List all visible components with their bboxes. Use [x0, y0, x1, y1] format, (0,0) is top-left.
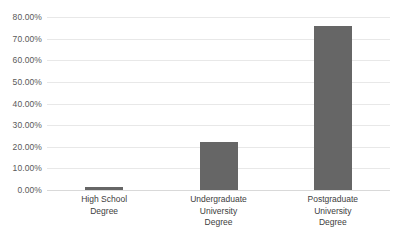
y-axis-tick-label: 0.00% — [17, 185, 42, 195]
y-axis-tick-label: 60.00% — [13, 55, 42, 65]
x-axis-category-label: High School Degree — [47, 194, 161, 217]
bars-group — [47, 17, 390, 190]
axis-baseline — [47, 190, 390, 191]
y-axis: 0.00%10.00%20.00%30.00%40.00%50.00%60.00… — [0, 0, 45, 242]
plot-area — [47, 17, 390, 190]
y-axis-tick-label: 40.00% — [13, 99, 42, 109]
x-axis: High School DegreeUndergraduate Universi… — [47, 194, 390, 242]
bar — [314, 26, 352, 190]
bar — [85, 187, 123, 190]
y-axis-tick-label: 20.00% — [13, 142, 42, 152]
y-axis-tick-label: 10.00% — [13, 163, 42, 173]
bar — [200, 142, 238, 190]
x-axis-category-label: Postgraduate University Degree — [276, 194, 390, 229]
y-axis-tick-label: 50.00% — [13, 77, 42, 87]
x-axis-category-label: Undergraduate University Degree — [161, 194, 275, 229]
bar-chart: 0.00%10.00%20.00%30.00%40.00%50.00%60.00… — [0, 0, 400, 242]
y-axis-tick-label: 80.00% — [13, 12, 42, 22]
y-axis-tick-label: 70.00% — [13, 34, 42, 44]
y-axis-tick-label: 30.00% — [13, 120, 42, 130]
